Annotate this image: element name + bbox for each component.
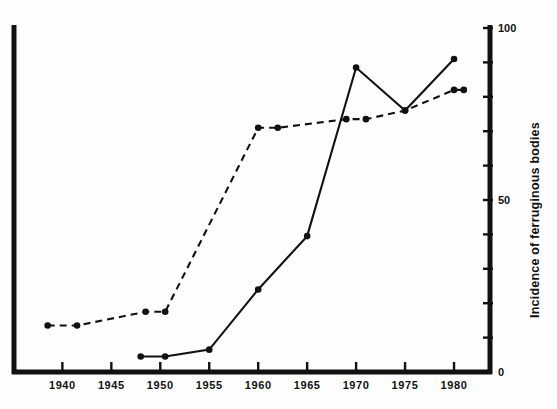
series-line-solid-series — [141, 59, 454, 357]
data-point-marker — [274, 124, 281, 131]
axes-group — [12, 25, 492, 374]
y-tick-label: 50 — [498, 194, 510, 206]
data-point-marker — [451, 56, 458, 63]
x-tick-label: 1945 — [98, 379, 125, 391]
data-point-marker — [255, 124, 262, 131]
data-point-marker — [304, 233, 311, 240]
data-point-marker — [206, 346, 213, 353]
chart-root: 194019451950195519601965197019751980 050… — [0, 0, 557, 409]
x-tick-label: 1970 — [343, 379, 370, 391]
data-point-marker — [255, 286, 262, 293]
x-tick-label: 1960 — [245, 379, 272, 391]
y-axis-tick-labels: 050100 — [498, 22, 516, 378]
x-tick-label: 1975 — [392, 379, 419, 391]
data-point-marker — [162, 309, 169, 316]
data-point-marker — [461, 87, 468, 94]
x-tick-label: 1980 — [441, 379, 468, 391]
data-point-marker — [363, 116, 370, 123]
ferruginous-bodies-line-chart: 194019451950195519601965197019751980 050… — [0, 0, 557, 409]
y-tick-label: 0 — [498, 366, 504, 378]
x-tick-label: 1940 — [49, 379, 76, 391]
y-axis-title: Incidence of ferruginous bodies — [528, 122, 542, 318]
x-tick-label: 1955 — [196, 379, 223, 391]
data-point-marker — [137, 353, 144, 360]
x-axis-ticks — [62, 362, 454, 370]
data-point-marker — [142, 309, 149, 316]
data-point-marker — [74, 322, 81, 329]
data-point-marker — [343, 116, 350, 123]
x-tick-label: 1950 — [147, 379, 174, 391]
data-point-marker — [353, 64, 360, 71]
data-point-marker — [162, 353, 169, 360]
x-axis-tick-labels: 194019451950195519601965197019751980 — [49, 379, 468, 391]
data-point-marker — [451, 87, 458, 94]
x-tick-label: 1965 — [294, 379, 321, 391]
y-tick-label: 100 — [498, 22, 516, 34]
data-point-marker — [44, 322, 51, 329]
data-series-group — [44, 56, 467, 360]
data-point-marker — [402, 107, 409, 114]
